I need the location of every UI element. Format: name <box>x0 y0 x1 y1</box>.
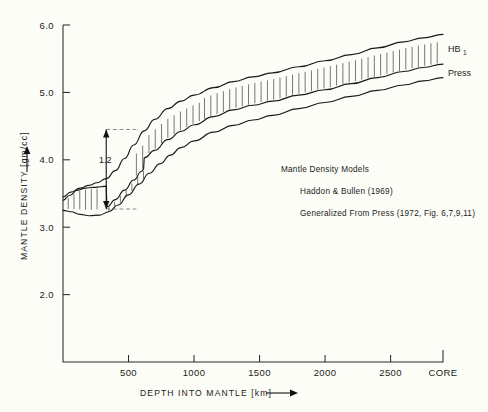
x-tick-label-1: 1000 <box>183 367 206 378</box>
note-line-reference: Haddon & Bullen (1969) <box>300 187 393 196</box>
label-hb1-subscript: 1 <box>463 49 467 56</box>
note-line-title: Mantle Density Models <box>281 165 369 174</box>
y-tick-label-3: 5.0 <box>40 87 54 98</box>
curve-press <box>63 64 443 207</box>
hatch-band-upper <box>136 42 437 175</box>
mantle-density-chart: 2.03.04.05.06.0 5001000150020002500CORE … <box>0 0 488 412</box>
x-tick-label-2: 1500 <box>248 367 271 378</box>
jump-arrow-head-bottom <box>103 201 109 209</box>
density-jump-label: 1.2 <box>99 155 112 165</box>
label-press: Press <box>448 68 472 78</box>
x-axis-title: DEPTH INTO MANTLE [km] <box>140 388 272 398</box>
notes-block: Mantle Density Models Haddon & Bullen (1… <box>281 165 475 218</box>
y-tick-label-2: 4.0 <box>40 154 54 165</box>
y-axis-ticks: 2.03.04.05.06.0 <box>40 20 70 301</box>
y-axis-title-group: MANTLE DENSITY [gm/cc] <box>19 131 30 260</box>
density-jump-arrow <box>103 129 109 209</box>
note-line-source: Generalized From Press (1972, Fig. 6,7,9… <box>300 209 475 218</box>
x-tick-label-4: 2500 <box>379 367 402 378</box>
annotation-guides <box>106 129 136 209</box>
jump-arrow-head-top <box>103 129 109 137</box>
label-hb1: HB <box>448 44 461 54</box>
x-axis-ticks: 5001000150020002500CORE <box>120 355 458 378</box>
y-tick-label-0: 2.0 <box>40 289 54 300</box>
curve-hb1 <box>63 34 443 196</box>
x-tick-label-3: 2000 <box>314 367 337 378</box>
x-tick-label-5: CORE <box>428 367 457 378</box>
y-tick-label-4: 6.0 <box>40 20 54 31</box>
x-axis-title-group: DEPTH INTO MANTLE [km] <box>140 388 298 398</box>
y-tick-label-1: 3.0 <box>40 222 54 233</box>
x-tick-label-0: 500 <box>120 367 137 378</box>
chart-figure: 2.03.04.05.06.0 5001000150020002500CORE … <box>0 0 488 412</box>
curve-labels: HB 1 Press <box>448 44 472 78</box>
